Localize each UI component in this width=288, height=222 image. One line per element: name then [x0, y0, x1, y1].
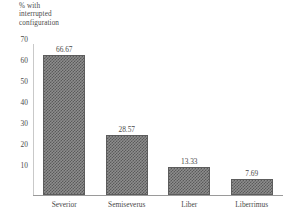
bar-value-label: 28.57	[118, 125, 135, 134]
chart-title: % with interrupted configuration	[19, 2, 129, 27]
bar-value-label: 66.67	[56, 45, 73, 54]
y-axis-tick-30: 30	[21, 119, 33, 128]
y-axis-tick-50: 50	[21, 77, 33, 86]
x-axis-category-label: Semiseverus	[108, 200, 145, 209]
bar-group: 28.57Semiseverus	[106, 135, 148, 195]
bar-group: 66.67Severior	[43, 55, 85, 195]
bar-value-label: 7.69	[245, 169, 258, 178]
bar: 66.67	[43, 55, 85, 195]
x-axis-category-label: Severior	[52, 200, 77, 209]
y-axis-tick-40: 40	[21, 98, 33, 107]
y-axis-tick-10: 10	[21, 161, 33, 170]
y-axis-tick-60: 60	[21, 56, 33, 65]
y-axis-tick-70: 70	[21, 35, 33, 44]
y-axis-tick-20: 20	[21, 140, 33, 149]
bar-group: 13.33Liber	[168, 167, 210, 195]
x-axis-line	[33, 195, 283, 196]
plot-area: 70605040302010 66.67Severior28.57Semisev…	[33, 44, 283, 195]
x-axis-category-label: Liber	[181, 200, 197, 209]
x-axis-category-label: Liberrimus	[235, 200, 268, 209]
bar-value-label: 13.33	[181, 157, 198, 166]
bar-chart-figure: % with interrupted configuration 7060504…	[0, 0, 288, 222]
bar: 7.69	[231, 179, 273, 195]
bar: 13.33	[168, 167, 210, 195]
bar-group: 7.69Liberrimus	[231, 179, 273, 195]
bar: 28.57	[106, 135, 148, 195]
